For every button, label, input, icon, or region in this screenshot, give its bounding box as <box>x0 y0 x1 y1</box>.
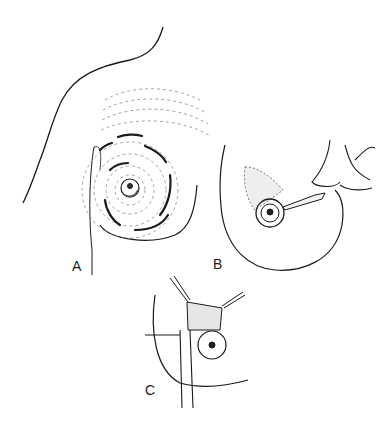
illustration-canvas <box>0 0 392 422</box>
panel-label-c: C <box>145 382 155 398</box>
panel-label-a: A <box>72 258 81 274</box>
panel-a <box>23 27 210 275</box>
panel-label-b: B <box>213 256 222 272</box>
panel-c <box>145 276 248 408</box>
panel-b <box>220 140 375 270</box>
